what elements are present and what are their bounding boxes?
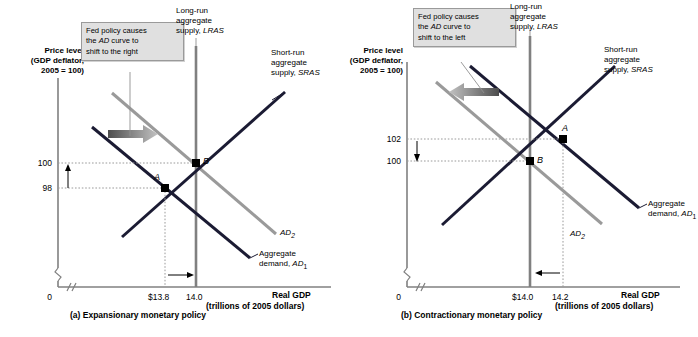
y-axis-title-line2: (GDP deflator,	[8, 56, 84, 66]
x-axis-title-a: Real GDP	[272, 290, 311, 300]
lras-label-line3-pre: supply,	[176, 26, 203, 35]
price-change-arrow-b	[414, 141, 420, 162]
origin-label-b: 0	[387, 292, 401, 302]
sras-label-line1: Short-run	[604, 45, 653, 55]
ad2-label-sub: 2	[291, 232, 295, 239]
ad1-leader-b	[639, 204, 647, 208]
ad1-label-b: Aggregate demand, AD1	[648, 199, 696, 221]
axes-b	[404, 62, 680, 291]
sras-label-line1: Short-run	[271, 48, 320, 58]
panel-expansionary: Price level (GDP deflator, 2005 = 100) 1…	[0, 0, 349, 337]
ad1-label-line2-pre: demand,	[259, 259, 292, 268]
ad1-label-line1: Aggregate	[648, 199, 696, 209]
sras-label-line3: supply, SRAS	[271, 68, 320, 78]
ad2-label-sub: 2	[581, 233, 585, 240]
lras-label-line3-em: LRAS	[537, 22, 558, 31]
x-axis-subtitle-a: (trillions of 2005 dollars)	[206, 301, 304, 311]
ad1-label-line1: Aggregate	[259, 249, 307, 259]
lras-label-line3: supply, LRAS	[176, 26, 224, 36]
price-change-arrow-a	[65, 164, 71, 188]
ad1-label-a: Aggregate demand, AD1	[259, 249, 307, 271]
callout-line1: Fed policy causes	[418, 12, 511, 22]
x-tick-13-8-a: $13.8	[148, 292, 169, 302]
sras-label-line2: aggregate	[271, 58, 320, 68]
callout-line3: shift to the right	[86, 47, 179, 57]
output-change-arrow-b	[535, 270, 560, 276]
lras-label-line1: Long-run	[176, 6, 224, 16]
panel-contractionary: Price level (GDP deflator, 2005 = 100) 1…	[349, 0, 698, 337]
sras-label-line3-em: SRAS	[631, 65, 653, 74]
callout-line2-post: curve to	[109, 36, 138, 45]
ad1-label-line2: demand, AD1	[259, 259, 307, 271]
figure-root: Price level (GDP deflator, 2005 = 100) 1…	[0, 0, 698, 337]
ad1-curve	[470, 66, 639, 208]
callout-line2-pre: the	[418, 22, 431, 31]
sras-label-line3: supply, SRAS	[604, 65, 653, 75]
sras-label-b: Short-run aggregate supply, SRAS	[604, 45, 653, 75]
sras-label-line3-pre: supply,	[604, 65, 631, 74]
y-axis-title-line3: 2005 = 100)	[331, 66, 403, 76]
y-tick-102-b: 102	[371, 134, 401, 144]
ad1-label-line2: demand, AD1	[648, 209, 696, 221]
output-change-arrow-a	[168, 272, 194, 278]
callout-line2: the AD curve to	[86, 36, 179, 46]
point-label-A-b: A	[562, 123, 568, 133]
point-marker-A	[161, 184, 169, 192]
callout-expansionary: Fed policy causes the AD curve to shift …	[81, 22, 184, 61]
y-axis-title-line3: 2005 = 100)	[8, 66, 84, 76]
x-tick-14-0-b: $14.0	[512, 292, 533, 302]
lras-label-line1: Long-run	[510, 2, 558, 12]
callout-contractionary: Fed policy causes the AD curve to shift …	[413, 8, 516, 47]
point-marker-A	[559, 135, 567, 143]
ad2-label-a: AD2	[280, 228, 295, 240]
y-axis-title-line1: Price level	[331, 46, 403, 56]
sras-label-a: Short-run aggregate supply, SRAS	[271, 48, 320, 78]
ad1-label-line2-pre: demand,	[648, 209, 681, 218]
point-marker-B	[526, 157, 534, 165]
sras-label-line3-pre: supply,	[271, 68, 298, 77]
x-tick-14-0-a: 14.0	[186, 292, 203, 302]
point-marker-B	[192, 159, 200, 167]
lras-label-a: Long-run aggregate supply, LRAS	[176, 6, 224, 36]
origin-label-a: 0	[38, 292, 52, 302]
caption-b: (b) Contractionary monetary policy	[401, 310, 542, 320]
lras-label-line3: supply, LRAS	[510, 22, 558, 32]
x-axis-subtitle-b: (trillions of 2005 dollars)	[555, 301, 653, 311]
ad1-label-line2-em: AD	[681, 209, 692, 218]
callout-line2-em: AD	[99, 36, 110, 45]
y-axis-title-line1: Price level	[8, 46, 84, 56]
ad2-label-text: AD	[570, 229, 581, 238]
sras-label-line2: aggregate	[604, 55, 653, 65]
ad1-leader-a	[250, 254, 258, 258]
callout-line2: the AD curve to	[418, 22, 511, 32]
sras-label-line3-em: SRAS	[298, 68, 320, 77]
y-tick-100-a: 100	[22, 158, 52, 168]
y-axis-title-line2: (GDP deflator,	[331, 56, 403, 66]
ad1-label-line2-em: AD	[292, 259, 303, 268]
callout-line2-pre: the	[86, 36, 99, 45]
caption-a: (a) Expansionary monetary policy	[70, 310, 206, 320]
y-tick-98-a: 98	[22, 183, 52, 193]
callout-line3: shift to the left	[418, 33, 511, 43]
ad2-label-b: AD2	[570, 229, 585, 241]
lras-label-line3-pre: supply,	[510, 22, 537, 31]
ad2-label-text: AD	[280, 228, 291, 237]
lras-label-line2: aggregate	[510, 12, 558, 22]
y-axis-title-b: Price level (GDP deflator, 2005 = 100)	[331, 46, 403, 76]
lras-label-b: Long-run aggregate supply, LRAS	[510, 2, 558, 32]
ad1-label-line2-sub: 1	[303, 263, 307, 270]
guide-lines-a	[58, 163, 196, 287]
callout-line1: Fed policy causes	[86, 26, 179, 36]
point-label-B-b: B	[537, 155, 543, 165]
callout-line2-em: AD	[431, 22, 442, 31]
lras-label-line2: aggregate	[176, 16, 224, 26]
lras-label-line3-em: LRAS	[203, 26, 224, 35]
point-label-B-a: B	[203, 156, 209, 166]
point-label-A-a: A	[154, 172, 160, 182]
x-axis-title-b: Real GDP	[621, 290, 660, 300]
y-tick-100-b: 100	[371, 156, 401, 166]
ad1-label-line2-sub: 1	[692, 213, 696, 220]
callout-line2-post: curve to	[441, 22, 470, 31]
y-axis-title-a: Price level (GDP deflator, 2005 = 100)	[8, 46, 84, 76]
